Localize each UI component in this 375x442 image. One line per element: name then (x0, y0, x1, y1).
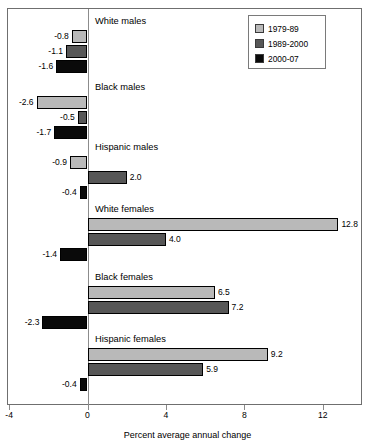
group-label: White males (95, 16, 146, 26)
bar (88, 363, 204, 376)
legend-label-2000-07: 2000-07 (268, 54, 299, 64)
legend: 1979-89 1989-2000 2000-07 (248, 15, 326, 69)
bar (42, 316, 87, 329)
x-tick-label: 12 (318, 410, 328, 420)
bar-value-label: -1.6 (38, 60, 53, 73)
bar-value-label: -0.4 (62, 186, 77, 199)
group-label: Black males (95, 82, 145, 92)
bar (88, 301, 229, 314)
bar-value-label: -1.7 (37, 126, 52, 139)
x-tick-label: 0 (85, 410, 90, 420)
bar-value-label: -2.6 (19, 96, 34, 109)
x-tick-label: 8 (242, 410, 247, 420)
bar (88, 218, 339, 231)
legend-swatch-2000-07 (255, 54, 264, 63)
bar (66, 45, 88, 58)
bar-value-label: -0.4 (62, 378, 77, 391)
legend-label-1979-89: 1979-89 (268, 24, 299, 34)
bar-value-label: 2.0 (130, 171, 142, 184)
legend-swatch-1979-89 (255, 24, 264, 33)
bar (60, 248, 87, 261)
bar-value-label: -1.1 (48, 45, 63, 58)
bar-value-label: 6.5 (218, 286, 230, 299)
bar (80, 186, 88, 199)
bar-value-label: -0.5 (60, 111, 75, 124)
bar-value-label: 12.8 (341, 218, 358, 231)
x-tick-label: 4 (164, 410, 169, 420)
bar (88, 171, 127, 184)
bar-value-label: 4.0 (169, 233, 181, 246)
group-label: Hispanic males (95, 142, 158, 152)
bar (78, 111, 88, 124)
bar (88, 286, 215, 299)
x-tick-label: -4 (5, 410, 13, 420)
legend-swatch-1989-2000 (255, 39, 264, 48)
bar-value-label: 7.2 (232, 301, 244, 314)
bar-value-label: -0.8 (54, 30, 69, 43)
bar (80, 378, 88, 391)
x-axis-title: Percent average annual change (0, 430, 375, 442)
group-label: White females (95, 204, 154, 214)
bar-value-label: -2.3 (25, 316, 40, 329)
group-label: Hispanic females (95, 334, 166, 344)
bar (88, 348, 268, 361)
group-label: Black females (95, 272, 153, 282)
legend-item[interactable]: 1989-2000 (255, 36, 325, 51)
legend-item[interactable]: 2000-07 (255, 51, 325, 66)
bar (88, 233, 166, 246)
bar (70, 156, 88, 169)
bar-value-label: -0.9 (52, 156, 67, 169)
bar-value-label: -1.4 (42, 248, 57, 261)
bar (72, 30, 88, 43)
legend-label-1989-2000: 1989-2000 (268, 39, 308, 49)
bar-value-label: 5.9 (206, 363, 218, 376)
bar-chart: White males-0.8-1.1-1.6Black males-2.6-0… (0, 0, 375, 442)
legend-item[interactable]: 1979-89 (255, 21, 325, 36)
bar (54, 126, 87, 139)
bar-value-label: 9.2 (271, 348, 283, 361)
bar (56, 60, 87, 73)
bar (37, 96, 88, 109)
